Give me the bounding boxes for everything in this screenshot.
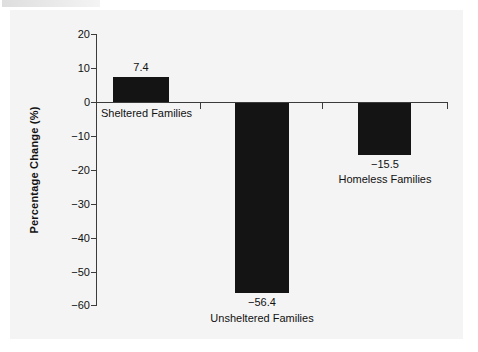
bar-homeless-families <box>358 103 411 155</box>
x-tick-mark-2 <box>322 103 323 109</box>
y-tick-mark-neg30 <box>91 204 96 205</box>
y-axis-title: Percentage Change (%) <box>28 75 40 265</box>
y-tick-label-20: 20 <box>50 28 90 40</box>
bar-value-label-homeless-families: −15.5 <box>345 158 425 170</box>
y-tick-label-neg40: −40 <box>50 232 90 244</box>
y-tick-label-neg50: −50 <box>50 266 90 278</box>
y-tick-mark-20 <box>91 34 96 35</box>
chart-screenshot: Percentage Change (%) 20 10 0 −10 −20 −3… <box>0 0 478 352</box>
y-tick-mark-neg40 <box>91 238 96 239</box>
y-tick-mark-10 <box>91 68 96 69</box>
y-tick-mark-neg20 <box>91 170 96 171</box>
bar-value-label-sheltered-families: 7.4 <box>101 61 181 73</box>
y-tick-label-10: 10 <box>50 62 90 74</box>
x-tick-mark-3 <box>447 103 448 109</box>
bar-value-label-unsheltered-families: −56.4 <box>222 296 302 308</box>
category-label-sheltered-families: Sheltered Families <box>101 107 231 119</box>
y-tick-label-neg10: −10 <box>50 130 90 142</box>
bar-unsheltered-families <box>235 103 289 293</box>
category-label-unsheltered-families: Unsheltered Families <box>202 312 322 324</box>
bar-sheltered-families <box>113 77 169 102</box>
y-tick-label-0: 0 <box>50 96 90 108</box>
y-axis-line <box>96 34 97 306</box>
y-tick-label-neg60: −60 <box>50 299 90 311</box>
y-tick-mark-neg10 <box>91 136 96 137</box>
category-label-homeless-families: Homeless Families <box>325 173 445 185</box>
y-tick-mark-neg50 <box>91 272 96 273</box>
y-tick-label-neg30: −30 <box>50 198 90 210</box>
y-tick-mark-neg60 <box>91 305 96 306</box>
bar-chart-plot: Percentage Change (%) 20 10 0 −10 −20 −3… <box>0 0 478 352</box>
y-tick-label-neg20: −20 <box>50 164 90 176</box>
